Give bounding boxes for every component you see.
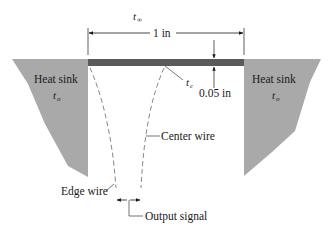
- svg-text:o: o: [276, 95, 280, 103]
- svg-text:∞: ∞: [137, 16, 142, 24]
- heat-sink-diagram: t ∞ 1 in Heat sink t o Heat sink t o 0.0…: [0, 0, 332, 231]
- output-signal-label: Output signal: [145, 210, 207, 223]
- svg-text:c: c: [190, 82, 194, 90]
- center-wire: [141, 68, 164, 188]
- thickness-dimension-label: 0.05 in: [199, 87, 231, 99]
- center-temperature-leader: [165, 66, 183, 80]
- thickness-dimension: 0.05 in: [199, 40, 231, 99]
- center-wire-label: Center wire: [161, 130, 215, 142]
- left-heat-sink-title: Heat sink: [34, 73, 78, 85]
- plate: [88, 59, 244, 66]
- ambient-temperature-label: t ∞: [133, 10, 142, 24]
- svg-text:o: o: [57, 95, 61, 103]
- center-temperature-label: t c: [186, 76, 194, 90]
- output-signal-leader: [129, 200, 143, 216]
- output-signal-dimension: [117, 200, 143, 216]
- width-dimension-label: 1 in: [153, 27, 171, 39]
- right-heat-sink-title: Heat sink: [252, 73, 296, 85]
- width-dimension: 1 in: [88, 27, 244, 55]
- edge-wire: [90, 68, 116, 188]
- edge-wire-label: Edge wire: [61, 185, 108, 198]
